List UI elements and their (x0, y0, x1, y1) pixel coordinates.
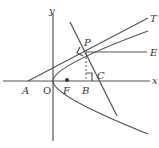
point-c-label: C (97, 70, 105, 81)
parabola-diagram: y x A O F B C P T E (0, 0, 159, 148)
point-p-label: P (83, 37, 91, 48)
focus-point (65, 78, 69, 82)
tangent-line (28, 18, 148, 81)
point-t-label: T (150, 13, 158, 24)
point-f-label: F (62, 85, 71, 96)
point-b-label: B (81, 85, 89, 96)
right-angle-marker-b (86, 73, 92, 81)
x-axis-label: x (152, 75, 158, 86)
point-e-label: E (149, 47, 158, 58)
point-a-label: A (21, 85, 29, 96)
point-o-label: O (43, 85, 51, 96)
y-axis-label: y (48, 5, 55, 16)
